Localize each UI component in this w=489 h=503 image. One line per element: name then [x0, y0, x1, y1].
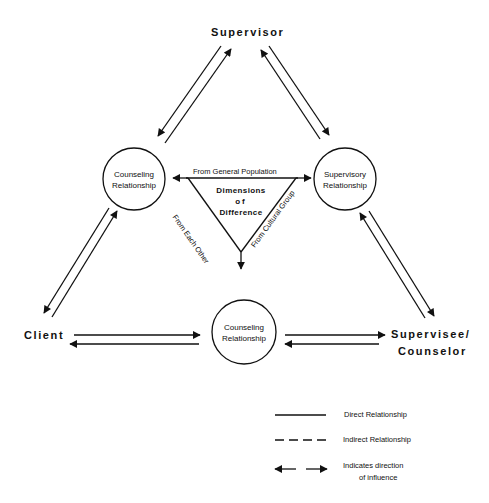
arrow-supervisor-supervisory	[261, 46, 329, 139]
supervisor-label: Supervisor	[211, 26, 284, 38]
circle-right-line1: Supervisory	[310, 169, 380, 180]
legend-direction-label-line2: of influence	[359, 473, 397, 482]
arrow-client-counseling	[70, 335, 200, 344]
arrow-supervisory-supervisee	[360, 211, 434, 318]
circle-left-line2: Relationship	[99, 180, 169, 191]
arrow-supervisor-counseling	[158, 46, 231, 143]
counseling-relationship-bottom-text: Counseling Relationship	[209, 322, 279, 344]
legend-indirect-label: Indirect Relationship	[343, 435, 411, 444]
arrow-counseling-supervisee	[285, 335, 385, 344]
supervisee-label-line2: Counselor	[398, 345, 467, 357]
triangle-title-line2: of	[201, 196, 281, 207]
circle-bottom-line1: Counseling	[209, 322, 279, 333]
legend-direct-label: Direct Relationship	[344, 410, 407, 419]
circle-right-line2: Relationship	[310, 180, 380, 191]
circle-bottom-line2: Relationship	[209, 333, 279, 344]
legend-direction-label-line1: Indicates direction	[343, 461, 403, 470]
circle-left-line1: Counseling	[99, 169, 169, 180]
supervisory-relationship-text: Supervisory Relationship	[310, 169, 380, 191]
client-label: Client	[24, 329, 64, 341]
arrow-counseling-client	[44, 208, 117, 317]
from-general-population-label: From General Population	[193, 167, 277, 176]
dimensions-of-difference-title: Dimensions of Difference	[201, 185, 281, 218]
diagram-canvas	[0, 0, 489, 503]
supervisee-label-line1: Supervisee/	[391, 328, 470, 340]
triangle-title-line1: Dimensions	[201, 185, 281, 196]
counseling-relationship-left-text: Counseling Relationship	[99, 169, 169, 191]
